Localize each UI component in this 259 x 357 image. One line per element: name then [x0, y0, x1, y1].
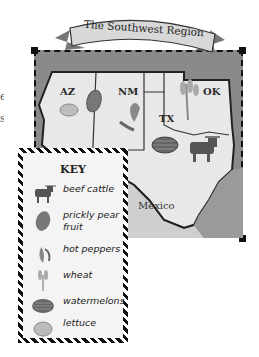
state-label-tx: TX: [159, 113, 174, 124]
key-item-beef-cattle: beef cattle: [31, 183, 125, 205]
mexico-label: Mexico: [138, 200, 175, 211]
cropped-text-fragment: e: [0, 90, 4, 103]
key-label: beef cattle: [63, 183, 125, 195]
key-item-hot-peppers: hot peppers: [31, 243, 125, 265]
key-item-lettuce: lettuce: [31, 317, 125, 339]
state-label-ok: OK: [203, 86, 220, 97]
state-label-az: AZ: [60, 86, 75, 97]
hot-peppers-icon: [31, 243, 57, 265]
beef-cattle-icon: [31, 183, 57, 205]
key-item-prickly-pear: prickly pear fruit: [31, 209, 125, 233]
prickly-pear-icon: [31, 209, 57, 231]
lettuce-icon: [31, 317, 57, 339]
state-label-nm: NM: [118, 86, 138, 97]
watermelon-icon: [31, 295, 57, 317]
cropped-text-fragment: s: [0, 112, 4, 125]
key-item-watermelons: watermelons: [31, 295, 125, 317]
key-label: watermelons: [63, 295, 125, 307]
map-key: KEY beef cattle prickly pear fruit hot p…: [18, 148, 128, 343]
wheat-icon: [31, 269, 57, 291]
key-label: wheat: [63, 269, 125, 281]
key-label: prickly pear fruit: [63, 209, 125, 233]
key-label: hot peppers: [63, 243, 125, 255]
key-item-wheat: wheat: [31, 269, 125, 291]
key-title: KEY: [23, 163, 123, 176]
key-label: lettuce: [63, 317, 125, 329]
